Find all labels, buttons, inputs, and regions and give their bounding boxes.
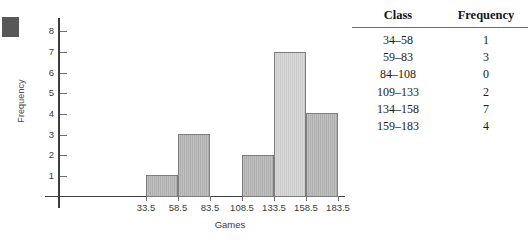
y-axis-label: Frequency xyxy=(16,66,26,136)
y-tick-label-6: 6 xyxy=(38,68,54,78)
y-tick-label-5: 5 xyxy=(38,88,54,98)
y-tick-text: 5 xyxy=(40,88,54,98)
table-cell-frequency: 0 xyxy=(444,66,528,83)
table-row: 34–58 1 xyxy=(352,32,528,49)
y-tick-text: 1 xyxy=(40,171,54,181)
y-tick-text: 8 xyxy=(40,26,54,36)
table-cell-class: 34–58 xyxy=(352,32,444,49)
histogram-bar-5 xyxy=(274,52,306,197)
y-tick-4 xyxy=(60,114,67,115)
x-tick-83-5 xyxy=(210,196,211,201)
x-tick-label-183-5: 183.5 xyxy=(317,203,359,213)
y-tick-5 xyxy=(60,93,67,94)
y-tick-6 xyxy=(60,73,67,74)
table-cell-frequency: 3 xyxy=(444,49,528,66)
x-tick-33-5 xyxy=(146,196,147,201)
x-tick-108-5 xyxy=(242,196,243,201)
y-tick-3 xyxy=(60,135,67,136)
y-tick-7 xyxy=(60,52,67,53)
table-row: 109–133 2 xyxy=(352,84,528,101)
y-tick-text: 4 xyxy=(40,109,54,119)
y-tick-label-1: 1 xyxy=(38,171,54,181)
table-row: 59–83 3 xyxy=(352,49,528,66)
table-row: 134–158 7 xyxy=(352,101,528,118)
y-tick-label-3: 3 xyxy=(38,130,54,140)
table-header-class: Class xyxy=(352,8,444,27)
y-tick-label-2: 2 xyxy=(38,150,54,160)
histogram-chart: 8 7 6 5 4 3 2 1 Frequency xyxy=(0,0,350,242)
table-cell-class: 134–158 xyxy=(352,101,444,118)
x-tick-58-5 xyxy=(178,196,179,201)
y-tick-text: 6 xyxy=(40,68,54,78)
frequency-distribution-table: Class Frequency 34–58 1 59–83 3 84 xyxy=(352,8,528,135)
table-row: 84–108 0 xyxy=(352,66,528,83)
histogram-bar-1 xyxy=(146,175,178,196)
x-tick-133-5 xyxy=(274,196,275,201)
histogram-figure: 8 7 6 5 4 3 2 1 Frequency xyxy=(0,0,530,242)
y-tick-text: 3 xyxy=(40,130,54,140)
table-cell-class: 59–83 xyxy=(352,49,444,66)
histogram-bar-2 xyxy=(178,134,210,197)
table-cell-class: 84–108 xyxy=(352,66,444,83)
x-tick-158-5 xyxy=(306,196,307,201)
table-cell-frequency: 7 xyxy=(444,101,528,118)
table-cell-frequency: 2 xyxy=(444,84,528,101)
table-header-frequency: Frequency xyxy=(444,8,528,27)
y-tick-text: 7 xyxy=(40,47,54,57)
x-tick-183-5 xyxy=(338,196,339,201)
y-tick-2 xyxy=(60,155,67,156)
histogram-bar-4 xyxy=(242,155,274,197)
y-tick-1 xyxy=(60,176,67,177)
table-cell-frequency: 4 xyxy=(444,118,528,135)
x-axis-label: Games xyxy=(150,219,310,230)
y-axis-line xyxy=(58,18,60,208)
y-tick-label-8: 8 xyxy=(38,26,54,36)
table-header-row: Class Frequency xyxy=(352,8,528,27)
y-tick-label-7: 7 xyxy=(38,47,54,57)
y-tick-text: 2 xyxy=(40,150,54,160)
table-cell-class: 109–133 xyxy=(352,84,444,101)
y-tick-label-4: 4 xyxy=(38,109,54,119)
table-cell-frequency: 1 xyxy=(444,32,528,49)
histogram-bar-6 xyxy=(306,113,338,197)
table-row: 159–183 4 xyxy=(352,118,528,135)
table-cell-class: 159–183 xyxy=(352,118,444,135)
y-tick-8 xyxy=(60,31,67,32)
